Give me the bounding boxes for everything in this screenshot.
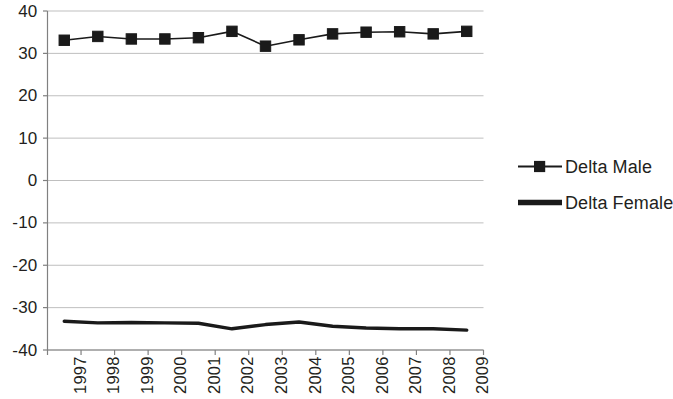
x-tick-label-2009: 2009 [474, 356, 491, 394]
x-tick-marks-group [48, 350, 484, 355]
data-point-marker [327, 29, 337, 39]
y-tick-label-20: 20 [18, 87, 37, 104]
data-point-marker [227, 26, 237, 36]
data-point-marker [93, 31, 103, 41]
y-tick-label--30: -30 [12, 299, 37, 316]
data-point-marker [361, 27, 371, 37]
data-point-marker [126, 34, 136, 44]
y-tick-label-0: 0 [28, 172, 38, 189]
gridlines-group [48, 11, 484, 350]
y-tick-label-10: 10 [18, 130, 37, 147]
x-tick-label-2006: 2006 [374, 356, 391, 394]
series-line-delta-female [64, 321, 466, 330]
x-tick-label-1998: 1998 [105, 356, 122, 394]
x-tick-label-2008: 2008 [441, 356, 458, 394]
x-tick-label-2005: 2005 [340, 356, 357, 394]
legend-item-delta-male-label: Delta Male [565, 158, 652, 176]
x-tick-label-1999: 1999 [139, 356, 156, 394]
x-tick-label-2000: 2000 [172, 356, 189, 394]
x-tick-label-2003: 2003 [273, 356, 290, 394]
data-point-marker [260, 41, 270, 51]
series-delta-female [64, 321, 466, 330]
legend-marker-square-delta-male [534, 161, 545, 172]
legend-item-delta-female-label: Delta Female [565, 194, 673, 212]
data-point-marker [462, 26, 472, 36]
data-point-marker [428, 29, 438, 39]
x-tick-label-2002: 2002 [239, 356, 256, 394]
x-tick-label-1997: 1997 [72, 356, 89, 394]
data-point-marker [294, 35, 304, 45]
y-tick-label--10: -10 [12, 214, 37, 231]
x-tick-label-2007: 2007 [407, 356, 424, 394]
legend-markers-group [518, 161, 562, 203]
y-tick-label--40: -40 [12, 342, 37, 359]
data-point-marker [160, 34, 170, 44]
x-tick-label-2001: 2001 [206, 356, 223, 394]
data-point-marker [394, 27, 404, 37]
data-point-marker [193, 32, 203, 42]
y-tick-label-30: 30 [18, 45, 37, 62]
y-tick-label--20: -20 [12, 257, 37, 274]
x-tick-label-2004: 2004 [307, 356, 324, 394]
data-point-marker [59, 35, 69, 45]
series-delta-male [59, 26, 472, 51]
y-tick-label-40: 40 [18, 3, 37, 20]
